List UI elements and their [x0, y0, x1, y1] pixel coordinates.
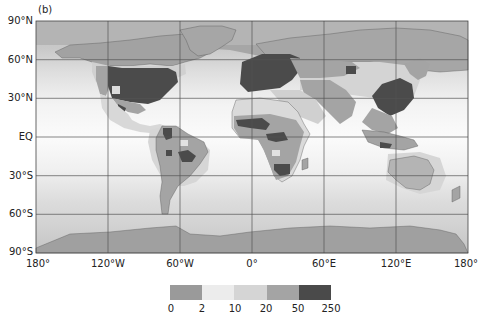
legend-tick-2: 2 — [199, 303, 205, 314]
color-legend — [170, 285, 331, 300]
world-map — [0, 0, 480, 321]
lon-label-120w: 120°W — [91, 258, 125, 269]
legend-swatch-10-20 — [234, 285, 266, 300]
lon-label-180e: 180° — [454, 258, 478, 269]
legend-swatch-0-2 — [170, 285, 202, 300]
lon-label-60w: 60°W — [166, 258, 194, 269]
legend-tick-0: 0 — [168, 303, 174, 314]
legend-tick-10: 10 — [229, 303, 242, 314]
lon-label-120e: 120°E — [381, 258, 411, 269]
lon-label-60e: 60°E — [312, 258, 336, 269]
legend-swatch-2-10 — [202, 285, 234, 300]
legend-tick-20: 20 — [260, 303, 273, 314]
legend-swatch-50-250 — [299, 285, 331, 300]
legend-swatch-20-50 — [267, 285, 299, 300]
lon-label-180w: 180° — [26, 258, 50, 269]
lon-label-0: 0° — [246, 258, 257, 269]
legend-tick-250: 250 — [321, 303, 340, 314]
legend-tick-50: 50 — [292, 303, 305, 314]
